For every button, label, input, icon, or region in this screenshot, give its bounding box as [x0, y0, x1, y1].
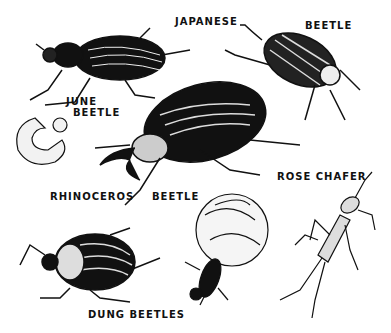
rose-chafer-figure	[280, 172, 375, 318]
label-june-beetle: BEETLE	[73, 107, 120, 119]
label-rose-chafer: ROSE CHAFER	[277, 171, 367, 183]
label-rhinoceros-beetle: BEETLE	[152, 191, 199, 203]
rhinoceros-beetle-figure	[95, 69, 300, 205]
label-rhinoceros: RHINOCEROS	[50, 191, 134, 203]
grub-figure	[17, 118, 67, 164]
dung-beetle-figure	[20, 228, 160, 302]
label-japanese: JAPANESE	[175, 16, 238, 28]
june-beetle-figure	[30, 28, 190, 105]
beetle-illustration	[0, 0, 391, 333]
label-dung-beetles: DUNG BEETLES	[88, 309, 185, 321]
label-japanese-beetle: BEETLE	[305, 20, 352, 32]
dung-ball-figure	[185, 194, 268, 305]
